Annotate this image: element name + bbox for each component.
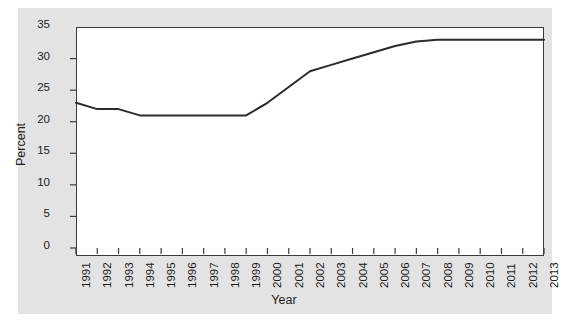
y-tick-label: 25 bbox=[24, 82, 50, 94]
x-tick-label: 2012 bbox=[528, 262, 540, 288]
y-tick-label: 20 bbox=[24, 114, 50, 126]
x-tick-label: 2005 bbox=[379, 262, 391, 288]
x-tick-label: 2010 bbox=[485, 262, 497, 288]
y-tick-label: 15 bbox=[24, 145, 50, 157]
x-tick-label: 1992 bbox=[102, 262, 114, 288]
plot-area bbox=[76, 27, 544, 256]
x-tick-label: 1999 bbox=[251, 262, 263, 288]
x-tick-label: 1998 bbox=[230, 262, 242, 288]
x-tick-label: 2013 bbox=[549, 262, 561, 288]
x-tick-label: 1997 bbox=[209, 262, 221, 288]
x-tick-label: 1995 bbox=[166, 262, 178, 288]
y-tick-label: 30 bbox=[24, 51, 50, 63]
x-tick-label: 2011 bbox=[506, 263, 518, 288]
y-tick-label: 35 bbox=[24, 19, 50, 31]
x-tick-label: 2004 bbox=[358, 262, 370, 288]
x-tick-label: 2009 bbox=[464, 262, 476, 288]
x-tick-label: 2008 bbox=[443, 262, 455, 288]
x-tick-label: 1991 bbox=[81, 262, 93, 288]
x-tick-label: 2002 bbox=[315, 262, 327, 288]
x-tick-label: 1994 bbox=[145, 262, 157, 288]
y-tick-label: 5 bbox=[24, 208, 50, 220]
x-tick-label: 2003 bbox=[336, 262, 348, 288]
x-tick-label: 1996 bbox=[187, 262, 199, 288]
figure-caption bbox=[0, 322, 568, 331]
y-tick-label: 0 bbox=[24, 240, 50, 252]
chart-figure: Percent 05101520253035 19911992199319941… bbox=[18, 8, 552, 314]
x-axis-title: Year bbox=[0, 293, 568, 307]
x-tick-label: 1993 bbox=[124, 262, 136, 288]
x-tick-label: 2000 bbox=[272, 262, 284, 288]
x-tick-label: 2006 bbox=[400, 262, 412, 288]
x-tick-label: 2001 bbox=[294, 262, 306, 288]
x-tick-label: 2007 bbox=[421, 262, 433, 288]
y-tick-label: 10 bbox=[24, 177, 50, 189]
